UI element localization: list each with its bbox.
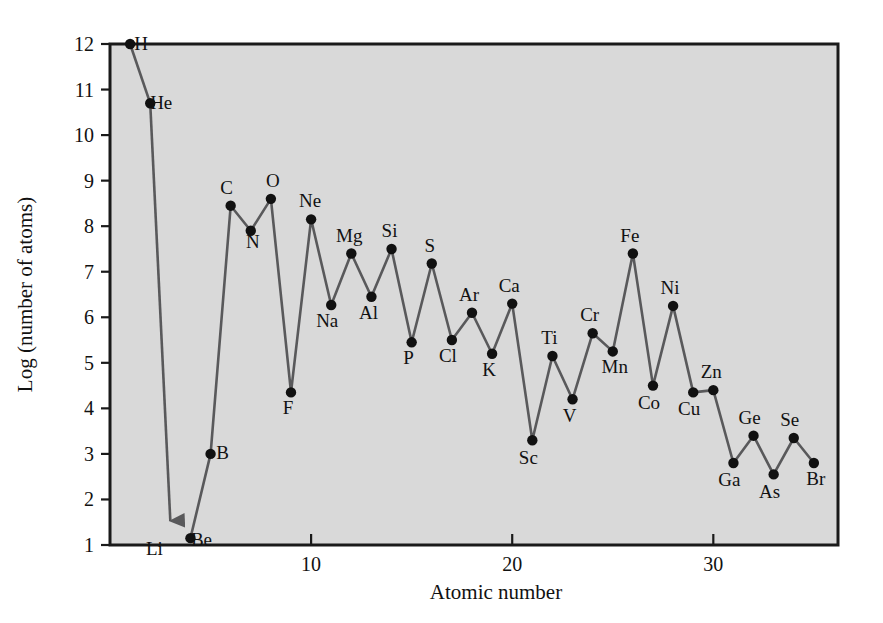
data-point-marker[interactable] xyxy=(225,200,235,210)
data-point-label: Ge xyxy=(738,407,760,428)
data-point-label: Co xyxy=(638,392,660,413)
y-axis-tick-label: 5 xyxy=(84,352,94,374)
data-point-marker[interactable] xyxy=(427,258,437,268)
data-point-marker[interactable] xyxy=(366,292,376,302)
data-point-label: Zn xyxy=(701,361,723,382)
data-point-label: Cu xyxy=(678,398,701,419)
data-point-label: Na xyxy=(316,310,339,331)
data-point-marker[interactable] xyxy=(668,301,678,311)
data-point-label: Ga xyxy=(718,469,741,490)
data-point-label: F xyxy=(283,397,294,418)
data-point-marker[interactable] xyxy=(748,430,758,440)
x-axis-title: Atomic number xyxy=(430,580,562,604)
y-axis-title: Log (number of atoms) xyxy=(13,197,37,392)
data-point-marker[interactable] xyxy=(346,248,356,258)
data-point-label: Ni xyxy=(661,277,680,298)
data-point-marker[interactable] xyxy=(789,433,799,443)
data-point-marker[interactable] xyxy=(708,385,718,395)
data-point-label: O xyxy=(266,170,280,191)
data-point-label: Mn xyxy=(602,356,629,377)
data-point-marker[interactable] xyxy=(547,351,557,361)
data-point-label: Ne xyxy=(299,190,321,211)
data-point-marker[interactable] xyxy=(507,298,517,308)
y-axis-tick-label: 12 xyxy=(74,33,94,55)
y-axis-tick-label: 2 xyxy=(84,488,94,510)
data-point-label: Al xyxy=(359,302,378,323)
y-axis-tick-label: 4 xyxy=(84,397,94,419)
data-point-marker[interactable] xyxy=(406,337,416,347)
data-point-marker[interactable] xyxy=(809,458,819,468)
abundance-chart-figure: 123456789101112102030Atomic numberLog (n… xyxy=(0,0,883,623)
data-point-marker[interactable] xyxy=(266,194,276,204)
data-point-marker[interactable] xyxy=(587,328,597,338)
data-point-label: N xyxy=(246,231,260,252)
data-point-label: Fe xyxy=(620,225,639,246)
y-axis-tick-label: 8 xyxy=(84,215,94,237)
x-axis-tick-label: 30 xyxy=(703,553,723,575)
data-point-label: As xyxy=(759,481,780,502)
y-axis-tick-label: 7 xyxy=(84,261,94,283)
y-axis-tick-label: 10 xyxy=(74,124,94,146)
data-point-label: Cl xyxy=(439,345,457,366)
data-point-label: K xyxy=(482,359,496,380)
data-point-label: Ti xyxy=(541,327,557,348)
data-point-label: Li xyxy=(146,538,163,559)
data-point-marker[interactable] xyxy=(205,449,215,459)
data-point-marker[interactable] xyxy=(286,387,296,397)
x-axis-tick-label: 10 xyxy=(301,553,321,575)
data-point-label: Cr xyxy=(580,304,600,325)
y-axis-tick-label: 11 xyxy=(75,79,94,101)
data-point-label: Mg xyxy=(336,225,363,246)
data-point-marker[interactable] xyxy=(326,300,336,310)
data-point-label: B xyxy=(216,442,229,463)
x-axis-tick-label: 20 xyxy=(502,553,522,575)
data-point-label: Ar xyxy=(459,284,480,305)
data-point-label: Se xyxy=(780,409,799,430)
data-point-marker[interactable] xyxy=(768,469,778,479)
y-axis-tick-label: 3 xyxy=(84,443,94,465)
data-point-label: S xyxy=(424,235,435,256)
data-point-label: V xyxy=(563,405,577,426)
data-point-marker[interactable] xyxy=(688,387,698,397)
y-axis-tick-label: 6 xyxy=(84,306,94,328)
data-point-marker[interactable] xyxy=(447,335,457,345)
data-point-marker[interactable] xyxy=(386,244,396,254)
data-point-label: C xyxy=(220,177,233,198)
data-point-label: P xyxy=(403,347,414,368)
data-point-label: Ca xyxy=(499,275,521,296)
data-point-marker[interactable] xyxy=(527,435,537,445)
chart-canvas: 123456789101112102030Atomic numberLog (n… xyxy=(0,0,883,623)
data-point-marker[interactable] xyxy=(487,349,497,359)
data-point-marker[interactable] xyxy=(467,308,477,318)
data-point-label: Si xyxy=(382,220,398,241)
data-point-label: H xyxy=(134,33,148,54)
data-point-label: Sc xyxy=(519,447,538,468)
data-point-label: Br xyxy=(806,468,826,489)
y-axis-tick-label: 1 xyxy=(84,534,94,556)
data-point-marker[interactable] xyxy=(728,458,738,468)
data-point-label: He xyxy=(150,92,172,113)
data-point-marker[interactable] xyxy=(306,214,316,224)
data-point-marker[interactable] xyxy=(608,346,618,356)
data-point-marker[interactable] xyxy=(648,380,658,390)
data-point-marker[interactable] xyxy=(567,394,577,404)
y-axis-tick-label: 9 xyxy=(84,170,94,192)
data-point-marker[interactable] xyxy=(628,248,638,258)
data-point-label: Be xyxy=(191,529,212,550)
